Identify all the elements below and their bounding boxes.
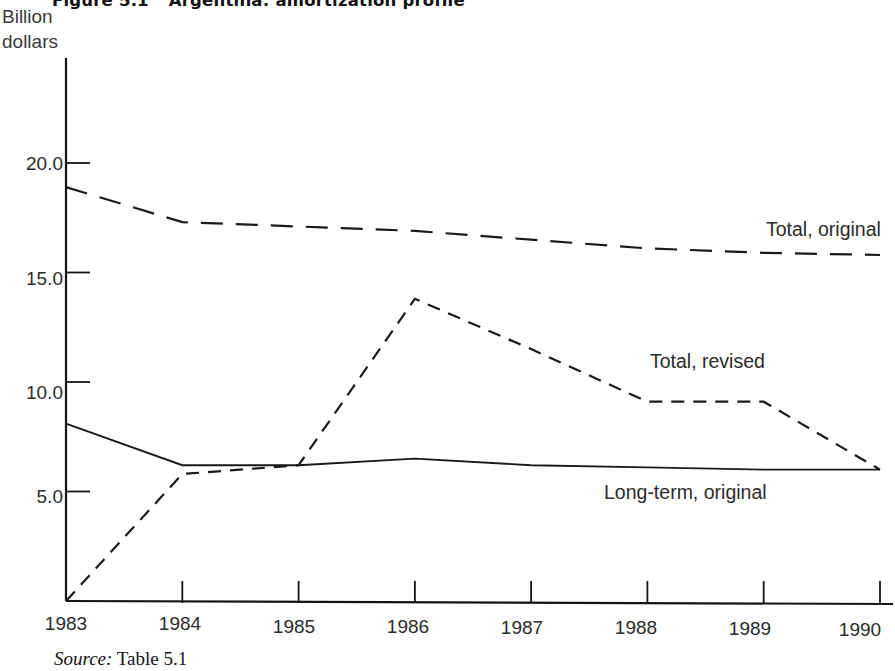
series-line-total-original (66, 187, 880, 255)
figure-container: Figure 5.1Argentina: amortization profil… (0, 0, 895, 671)
y-axis-ticks (66, 163, 90, 492)
chart-plot-area (0, 0, 895, 671)
series-line-total-revised (66, 299, 880, 601)
x-axis-line (66, 601, 893, 604)
series-line-long-term-original (66, 424, 880, 470)
x-axis-ticks (182, 581, 880, 603)
